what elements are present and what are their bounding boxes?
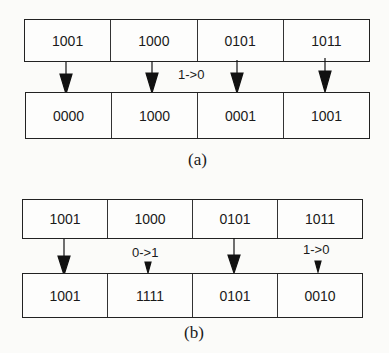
- panel-b-caption: (b): [184, 323, 204, 343]
- panel-b-annotation-1: 0->1: [132, 245, 158, 260]
- panel-b-output-cell: 0101: [193, 274, 278, 317]
- panel-b-output-row: 1001 1111 0101 0010: [22, 273, 363, 318]
- panel-b-output-cell: 1111: [108, 274, 193, 317]
- panel-b-output-cell: 0010: [278, 274, 362, 317]
- panel-b-output-cell: 1001: [23, 274, 108, 317]
- panel-b-annotation-2: 1->0: [303, 242, 329, 257]
